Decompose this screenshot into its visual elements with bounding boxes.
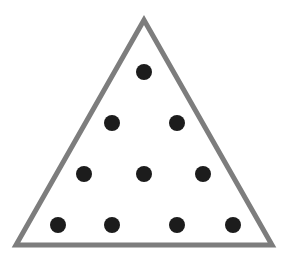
- diagram-svg: [0, 0, 287, 265]
- dot-row4-col4: [225, 217, 241, 233]
- dot-row3-col2: [136, 166, 152, 182]
- dot-row4-col2: [104, 217, 120, 233]
- dot-row2-col1: [104, 115, 120, 131]
- dot-row4-col3: [169, 217, 185, 233]
- dot-row4-col1: [50, 217, 66, 233]
- dot-row3-col3: [195, 166, 211, 182]
- triangle-dot-diagram: [0, 0, 287, 265]
- dot-row3-col1: [76, 166, 92, 182]
- triangle-outline: [16, 20, 272, 245]
- dot-row1-col1: [136, 64, 152, 80]
- dot-row2-col2: [169, 115, 185, 131]
